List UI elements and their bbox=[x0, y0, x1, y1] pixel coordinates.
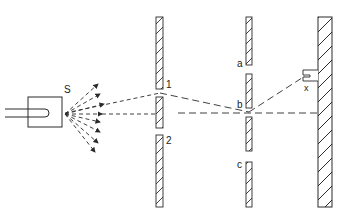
hole-a-label: a bbox=[237, 58, 243, 69]
first-wall: 1 2 bbox=[156, 17, 172, 207]
filament-icon bbox=[5, 109, 49, 117]
diagram-canvas: S 1 2 a b c bbox=[0, 0, 347, 221]
backstop-wall bbox=[318, 17, 332, 207]
slit-2-label: 2 bbox=[166, 135, 172, 146]
electron-source: S bbox=[5, 84, 71, 127]
emitted-rays bbox=[65, 84, 160, 152]
hole-b-label: b bbox=[237, 99, 243, 110]
detector-icon: x bbox=[303, 70, 318, 93]
source-label: S bbox=[64, 84, 71, 95]
slit-1-label: 1 bbox=[166, 79, 172, 90]
hole-c-label: c bbox=[237, 159, 242, 170]
detector-label: x bbox=[304, 83, 309, 93]
